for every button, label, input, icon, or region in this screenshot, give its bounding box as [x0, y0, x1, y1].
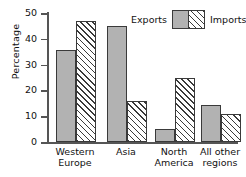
x-label-line-2: Europe [39, 157, 111, 168]
x-axis-line [47, 142, 238, 144]
bar-imports-asia [127, 101, 147, 142]
x-label-all-other-regions: All other regions [184, 146, 246, 168]
bar-group-asia [107, 26, 147, 142]
bar-exports-north-america [155, 129, 175, 142]
legend-swatch [172, 10, 205, 29]
y-tick-0 [41, 142, 47, 144]
y-ticklabel-0: 0 [3, 137, 37, 147]
bar-imports-north-america [175, 78, 195, 143]
plot-area [47, 13, 237, 142]
legend-swatch-exports [173, 11, 188, 28]
legend-label-exports: Exports [131, 14, 167, 25]
y-ticklabel-40: 40 [3, 34, 37, 44]
bar-group-all-other-regions [201, 105, 241, 142]
bar-chart: Percentage 50 40 30 20 10 0 Western [0, 0, 246, 177]
y-ticklabel-30: 30 [3, 60, 37, 70]
y-ticklabel-50: 50 [3, 8, 37, 18]
bar-group-western-europe [56, 21, 96, 142]
x-label-line-1: All other [184, 146, 246, 157]
y-ticklabel-20: 20 [3, 85, 37, 95]
bar-imports-western-europe [76, 21, 96, 142]
x-label-line-2: regions [184, 157, 246, 168]
bar-group-north-america [155, 78, 195, 143]
bar-exports-western-europe [56, 50, 76, 142]
bar-exports-asia [107, 26, 127, 142]
bar-exports-all-other-regions [201, 105, 221, 142]
legend-label-imports: Imports [210, 14, 246, 25]
legend: Exports Imports [131, 10, 246, 29]
bar-imports-all-other-regions [221, 114, 241, 142]
legend-swatch-imports [188, 11, 204, 28]
y-ticklabel-10: 10 [3, 111, 37, 121]
